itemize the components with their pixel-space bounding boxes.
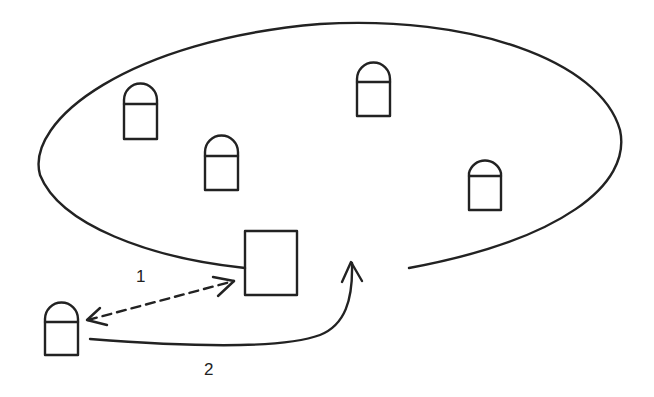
gateway-box <box>245 231 297 295</box>
edge-1-label: 1 <box>136 267 145 286</box>
diagram-canvas: 1 2 <box>0 0 654 397</box>
edge-1-dashed-arrow <box>87 277 234 325</box>
edge-2-curved-arrow <box>90 262 362 345</box>
node-c <box>357 63 390 116</box>
node-a <box>124 84 157 140</box>
node-b <box>205 136 238 190</box>
edge-2-label: 2 <box>204 360 213 379</box>
region-boundary <box>39 23 622 268</box>
node-outside <box>45 303 78 356</box>
arrowhead-right-icon <box>213 277 234 296</box>
node-d <box>469 161 501 210</box>
diagram-svg: 1 2 <box>0 0 654 397</box>
